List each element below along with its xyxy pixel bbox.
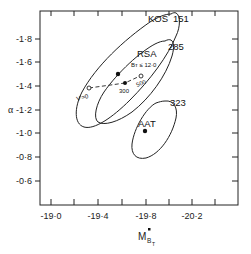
label-kos: KOS xyxy=(148,13,168,24)
label-300: 300 xyxy=(119,88,130,94)
x-tick-label: -19·4 xyxy=(87,211,108,221)
point-aat-bestfit xyxy=(143,129,147,133)
label-rsa-cut: Bᴛ ≤ 12·0 xyxy=(131,62,157,68)
label-kos-count: 151 xyxy=(173,13,189,24)
label-aat: AAT xyxy=(138,118,156,129)
label-rsa-count: 285 xyxy=(168,41,184,52)
y-tick-label: -0·6 xyxy=(16,176,32,186)
x-axis-label-star xyxy=(148,228,151,231)
point-300-filled xyxy=(123,81,127,85)
y-axis-label: α xyxy=(8,104,14,115)
label-rsa: RSA xyxy=(137,48,157,59)
label-aat-count: 323 xyxy=(170,97,186,108)
plot-frame xyxy=(40,11,238,205)
y-tick-label: -0·8 xyxy=(16,152,32,162)
x-tick-label: -19·0 xyxy=(40,211,61,221)
dashed-track xyxy=(89,76,140,88)
y-tick-label: -1·6 xyxy=(16,57,32,67)
left-ticks xyxy=(35,39,40,181)
right-ticks xyxy=(232,39,238,181)
x-tick-labels: -19·0 -19·4 -19·8 -20·2 xyxy=(40,211,202,221)
x-axis-label-main: M xyxy=(138,231,146,242)
point-kos-bestfit xyxy=(116,72,120,76)
x-axis-label-subsub: T xyxy=(152,241,155,247)
point-500-open xyxy=(139,74,143,78)
label-vf0: Vᶠ=0 xyxy=(76,93,90,102)
bottom-ticks xyxy=(51,199,215,205)
aat-contour xyxy=(132,101,177,158)
y-tick-label: -1·0 xyxy=(16,128,32,138)
kos-contour xyxy=(76,13,179,128)
x-axis-label: M B T xyxy=(138,228,155,247)
y-tick-label: -1·4 xyxy=(16,81,32,91)
y-tick-label: -1·2 xyxy=(16,105,32,115)
x-tick-label: -20·2 xyxy=(181,211,202,221)
chart-canvas: -1·8 -1·6 -1·4 -1·2 -1·0 -0·8 -0·6 -19·0… xyxy=(0,0,251,254)
point-vf0-open xyxy=(87,86,91,90)
x-tick-label: -19·8 xyxy=(135,211,156,221)
label-500: 500 xyxy=(135,79,147,88)
x-axis-label-sub: B xyxy=(147,237,151,244)
top-ticks xyxy=(51,11,215,16)
y-tick-labels: -1·8 -1·6 -1·4 -1·2 -1·0 -0·8 -0·6 xyxy=(16,34,32,186)
y-tick-label: -1·8 xyxy=(16,34,32,44)
